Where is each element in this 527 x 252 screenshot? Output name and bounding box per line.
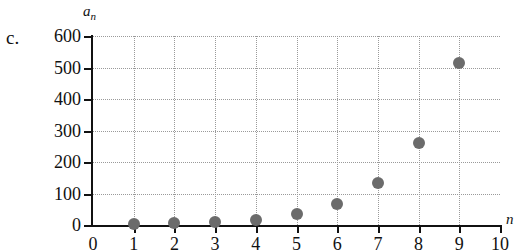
y-axis-tick-label: 200 <box>54 153 81 171</box>
data-point <box>331 198 343 210</box>
x-axis-tick <box>297 225 299 233</box>
y-axis-title-subscript: n <box>91 10 97 22</box>
y-axis-tick-label: 100 <box>54 185 81 203</box>
data-point <box>128 218 140 230</box>
y-axis-tick-label: 0 <box>72 216 81 234</box>
x-axis-tick <box>459 225 461 233</box>
data-point <box>209 216 221 228</box>
x-axis-tick <box>378 225 380 233</box>
plot-area: 0100200300400500600012345678910 <box>93 36 500 225</box>
y-axis-tick <box>84 131 93 133</box>
x-axis-tick-label: 4 <box>251 235 260 252</box>
x-axis-tick <box>337 225 339 233</box>
x-axis-tick-label: 8 <box>414 235 423 252</box>
data-point <box>453 57 465 69</box>
y-axis-tick <box>84 225 93 227</box>
x-axis-title: n <box>506 212 514 227</box>
x-axis-tick-label: 0 <box>89 235 98 252</box>
y-axis-tick-label: 300 <box>54 122 81 140</box>
x-axis-tick-label: 7 <box>373 235 382 252</box>
data-point <box>168 217 180 229</box>
x-axis-tick-label: 6 <box>333 235 342 252</box>
y-axis-tick <box>84 162 93 164</box>
y-axis-tick-label: 500 <box>54 59 81 77</box>
x-axis-tick <box>256 225 258 233</box>
y-axis-title-base: a <box>83 3 91 19</box>
data-point <box>372 177 384 189</box>
x-axis-tick-label: 9 <box>455 235 464 252</box>
figure-panel: c. an n 0100200300400500600012345678910 <box>0 0 527 252</box>
data-points <box>93 36 500 225</box>
y-axis-title: an <box>83 4 96 24</box>
y-axis-tick <box>84 36 93 38</box>
data-point <box>250 214 262 226</box>
y-axis-tick <box>84 99 93 101</box>
x-axis-tick <box>419 225 421 233</box>
part-label: c. <box>6 28 19 47</box>
y-axis-tick-label: 600 <box>54 27 81 45</box>
x-axis-tick <box>500 225 502 233</box>
x-axis-line <box>91 225 500 227</box>
x-axis-tick-label: 10 <box>491 235 509 252</box>
x-axis-tick-label: 2 <box>170 235 179 252</box>
x-axis-tick-label: 5 <box>292 235 301 252</box>
data-point <box>291 208 303 220</box>
y-axis-tick <box>84 68 93 70</box>
y-axis-tick-label: 400 <box>54 90 81 108</box>
data-point <box>413 137 425 149</box>
x-axis-tick-label: 1 <box>129 235 138 252</box>
x-axis-tick-label: 3 <box>211 235 220 252</box>
y-axis-tick <box>84 194 93 196</box>
